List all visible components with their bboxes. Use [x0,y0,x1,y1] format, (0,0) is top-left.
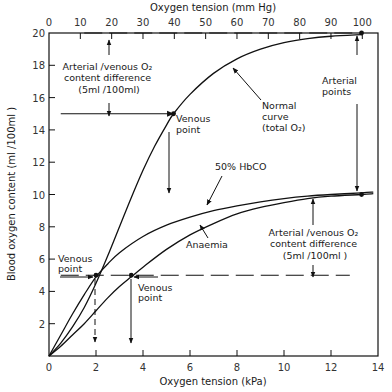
y-tick-label: 12 [32,157,45,168]
annotation-hbco: 50% HbCO [215,161,266,172]
annotation-line: (5ml /100ml) [78,84,140,95]
annotation-line: (total O₂) [262,122,305,133]
y-tick-label: 16 [32,93,45,104]
top-x-tick-label: 100 [353,17,372,28]
y-tick-label: 20 [32,28,45,39]
annotation-line: Arterial /venous O₂ [269,227,359,238]
top-x-tick-label: 80 [293,17,306,28]
annotation-venous-normal: Venous point [176,113,213,135]
annotation-line: content difference [64,72,151,83]
y-tick-label: 14 [32,125,45,136]
x-tick-label: 8 [234,362,240,373]
annotation-line: point [176,124,201,135]
top-x-tick-label: 70 [262,17,275,28]
x-tick-label: 6 [187,362,193,373]
annotation-line: point [58,263,83,274]
data-point-venous-point-anaemia [129,273,134,278]
y-tick-label: 10 [32,190,45,201]
y-tick-label: 6 [39,254,45,265]
annotation-arterial-points: Arterial points [322,75,360,97]
top-x-tick-label: 40 [168,17,181,28]
x-tick-label: 12 [325,362,338,373]
data-point-arterial-point-reduced-capacity [359,192,364,197]
top-x-tick-label: 30 [137,17,150,28]
annotation-line: Arterial [322,75,357,86]
annotation-venous-anaemia: Venous point [138,282,175,303]
top-x-tick-label: 90 [325,17,338,28]
y-axis-title: Blood oxygen content (ml /100ml ) [6,107,17,281]
top-x-tick-label: 60 [231,17,244,28]
annotation-line: (5ml /100ml ) [283,250,348,261]
oxygen-content-chart: Oxygen tension (mm Hg) Oxygen tension (k… [0,0,392,392]
annotation-anaemia: Anaemia [186,239,228,250]
annotation-line: Arterial /venous O₂ [63,61,153,72]
annotation-line: point [138,292,163,303]
top-x-tick-label: 0 [46,17,52,28]
x-tick-label: 4 [140,362,146,373]
y-tick-label: 2 [39,319,45,330]
bottom-axis-title: Oxygen tension (kPa) [159,376,266,387]
data-point-venous-point-50-hbco [94,273,99,278]
x-tick-label: 10 [278,362,291,373]
annotation-line: curve [262,111,289,122]
top-x-tick-label: 10 [74,17,87,28]
top-x-tick-label: 50 [199,17,212,28]
top-x-tick-label: 20 [105,17,118,28]
data-point-arterial-point-normal [359,31,364,36]
hbco-pointer [207,176,222,205]
x-tick-label: 2 [93,362,99,373]
normal-curve-pointer [233,68,261,100]
y-tick-label: 18 [32,60,45,71]
annotation-line: Venous [176,113,210,124]
annotation-venous-hbco: Venous point [58,253,95,274]
y-tick-label: 8 [39,222,45,233]
annotation-avd-bottom: Arterial /venous O₂ content difference (… [269,227,362,261]
annotation-normal-curve: Normal curve (total O₂) [262,100,305,133]
top-axis-title: Oxygen tension (mm Hg) [150,2,276,13]
annotation-line: content difference [270,238,357,249]
annotation-line: points [322,86,351,97]
x-tick-label: 0 [46,362,52,373]
annotation-avd-top: Arterial /venous O₂ content difference (… [63,61,156,95]
annotation-line: Normal [262,100,296,111]
y-tick-label: 4 [39,286,45,297]
x-tick-label: 14 [372,362,385,373]
